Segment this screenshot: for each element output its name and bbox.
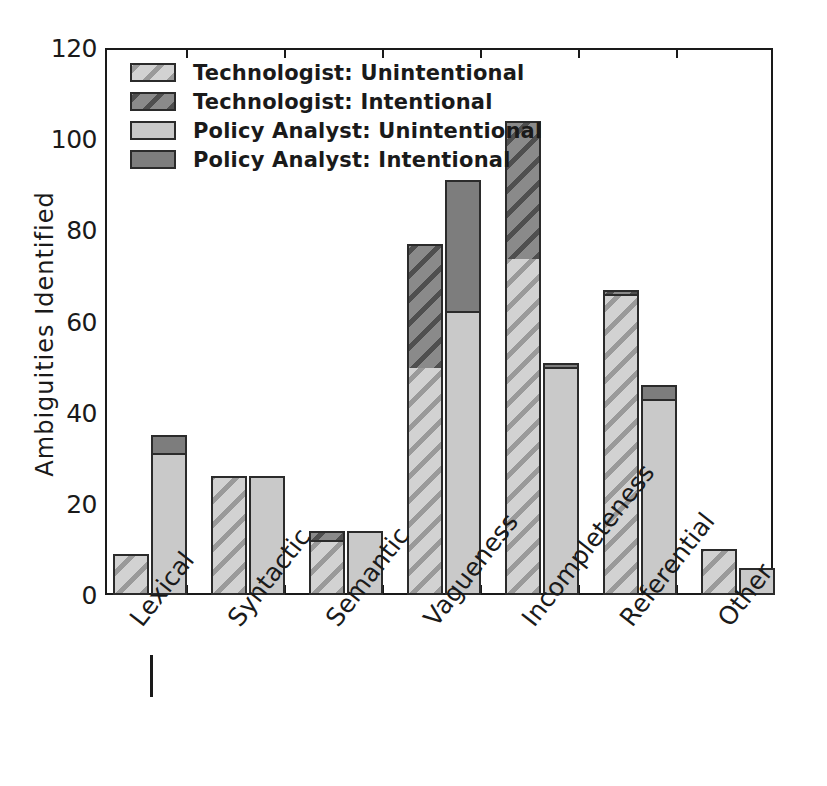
legend-item-technologist-intentional: Technologist: Intentional	[130, 87, 570, 116]
legend-label: Policy Analyst: Intentional	[193, 148, 511, 172]
chart-root: 120 100 80 60 40 20 0 Ambiguities Identi…	[0, 0, 827, 786]
legend-item-policy-unintentional: Policy Analyst: Unintentional	[130, 116, 570, 145]
x-tick-label-referential: Referential	[614, 507, 720, 632]
legend-label: Policy Analyst: Unintentional	[193, 119, 542, 143]
legend-swatch-icon	[130, 92, 176, 111]
legend-item-policy-intentional: Policy Analyst: Intentional	[130, 145, 570, 174]
legend-swatch-icon	[130, 63, 176, 82]
lexical-annotation-mark	[150, 655, 153, 697]
legend-swatch-icon	[130, 121, 176, 140]
legend-label: Technologist: Unintentional	[193, 61, 524, 85]
x-tick-label-lexical: Lexical	[124, 546, 200, 632]
legend-label: Technologist: Intentional	[193, 90, 493, 114]
legend-swatch-icon	[130, 150, 176, 169]
x-tick-label-other: Other	[712, 558, 779, 632]
legend-item-technologist-unintentional: Technologist: Unintentional	[130, 58, 570, 87]
x-tick-label-syntactic: Syntactic	[222, 523, 316, 632]
x-tick-label-vagueness: Vagueness	[418, 508, 524, 632]
chart-legend: Technologist: Unintentional Technologist…	[130, 58, 570, 174]
x-tick-label-semantic: Semantic	[320, 522, 415, 632]
